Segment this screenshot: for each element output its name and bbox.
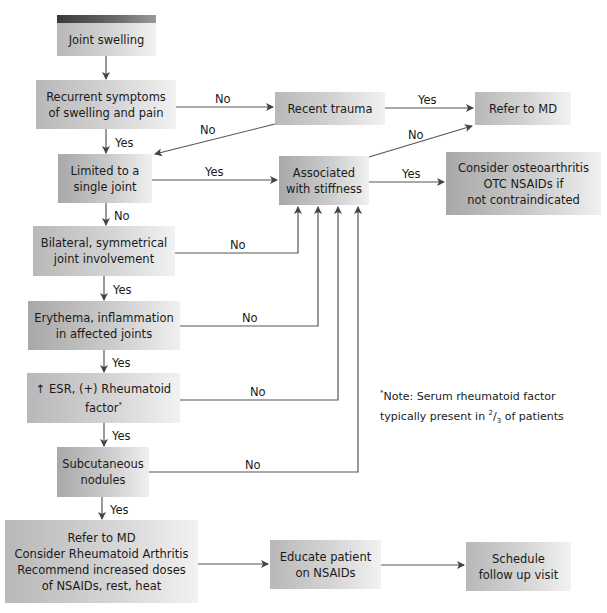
node-text: Recent trauma (287, 101, 372, 117)
node-text: not contraindicated (467, 192, 580, 208)
node-text: OTC NSAIDs if (483, 176, 563, 192)
node-text: factor (85, 400, 119, 414)
footnote-text: of patients (501, 409, 563, 422)
node-consider-osteoarthritis: Consider osteoarthritis OTC NSAIDs if no… (446, 152, 601, 215)
edge-label-recurrent-yes: Yes (115, 136, 134, 150)
edge-label-esr-yes: Yes (112, 429, 131, 443)
node-refer-rheumatoid-arthritis: Refer to MD Consider Rheumatoid Arthriti… (5, 520, 198, 603)
node-refer-to-md: Refer to MD (475, 92, 571, 125)
node-associated-stiffness: Associated with stiffness (279, 156, 369, 205)
node-bilateral-symmetrical: Bilateral, symmetrical joint involvement (33, 226, 175, 276)
footnote-line-2: typically present in 2/3 of patients (380, 405, 564, 429)
header-bar (57, 15, 156, 23)
node-text: Erythema, inflammation (34, 310, 174, 326)
node-text: of NSAIDs, rest, heat (42, 578, 162, 594)
edge-label-bilateral-no: No (230, 238, 246, 252)
footnote-text: Note: Serum rheumatoid factor (384, 390, 556, 403)
fraction-numerator: 2 (489, 409, 493, 417)
node-erythema-inflammation: Erythema, inflammation in affected joint… (28, 301, 180, 350)
edge-label-associated-yes: Yes (402, 167, 421, 181)
node-text: on NSAIDs (295, 565, 355, 581)
node-recurrent-symptoms: Recurrent symptoms of swelling and pain (36, 80, 176, 129)
node-text: Joint swelling (69, 32, 145, 48)
node-text: joint involvement (54, 251, 154, 267)
node-text: Recommend increased doses (17, 562, 185, 578)
node-text: Schedule (492, 551, 545, 567)
edge-label-subcut-yes: Yes (110, 503, 129, 517)
node-esr-rheumatoid-factor: ↑ ESR, (+) Rheumatoid factor* (27, 373, 180, 423)
edge-label-erythema-no: No (242, 311, 258, 325)
edge-label-subcut-no: No (245, 458, 261, 472)
node-text: ↑ ESR, (+) Rheumatoid (36, 381, 171, 397)
edge-label-limited-no: No (114, 209, 130, 223)
node-text-wrap: factor* (85, 397, 122, 416)
node-text: follow up visit (479, 567, 559, 583)
node-educate-patient: Educate patient on NSAIDs (270, 540, 381, 589)
edge-label-erythema-yes: Yes (112, 356, 131, 370)
node-text: Refer to MD (67, 530, 135, 546)
edge-label-associated-no: No (408, 128, 424, 142)
node-text: Recurrent symptoms (46, 89, 166, 105)
footnote: *Note: Serum rheumatoid factor typically… (380, 385, 564, 429)
edge-label-trauma-no: No (200, 123, 216, 137)
node-text: Consider osteoarthritis (458, 160, 589, 176)
footnote-text: typically present in (380, 409, 489, 422)
node-text: in affected joints (56, 326, 152, 342)
node-text: Associated (293, 165, 355, 181)
node-text: Limited to a (71, 163, 140, 179)
edge-label-limited-yes: Yes (205, 165, 224, 179)
edge-label-esr-no: No (250, 385, 266, 399)
node-joint-swelling: Joint swelling (57, 23, 156, 56)
node-text: Subcutaneous (62, 456, 144, 472)
node-limited-single-joint: Limited to a single joint (58, 154, 152, 203)
node-recent-trauma: Recent trauma (275, 92, 385, 125)
footnote-marker: * (119, 401, 123, 409)
footnote-line-1: *Note: Serum rheumatoid factor (380, 385, 564, 405)
node-text: nodules (80, 472, 125, 488)
node-text: Refer to MD (489, 101, 557, 117)
edge-label-recurrent-no: No (215, 92, 231, 106)
node-text: single joint (74, 179, 137, 195)
node-text: Educate patient (280, 549, 371, 565)
edge-label-trauma-yes: Yes (418, 93, 437, 107)
node-text: of swelling and pain (48, 105, 163, 121)
node-text: with stiffness (286, 181, 362, 197)
node-text: Consider Rheumatoid Arthritis (15, 546, 189, 562)
node-subcutaneous-nodules: Subcutaneous nodules (57, 447, 149, 497)
edge-label-bilateral-yes: Yes (113, 283, 132, 297)
node-schedule-follow-up: Schedule follow up visit (466, 542, 571, 591)
node-text: Bilateral, symmetrical (41, 235, 167, 251)
